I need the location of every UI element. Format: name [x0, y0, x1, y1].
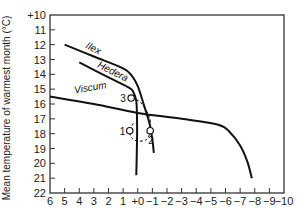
- x-ticks: 654321+0−1−2−3−4−5−6−7−8−9−10: [47, 188, 293, 207]
- x-tick-label: +0: [131, 195, 144, 207]
- y-tick-label: 21: [34, 172, 46, 184]
- x-tick-label: 5: [62, 195, 68, 207]
- series-label-viscum: Viscum: [73, 79, 107, 95]
- y-tick-label: 22: [34, 187, 46, 199]
- chart: 654321+0−1−2−3−4−5−6−7−8−9−10 +101112131…: [0, 0, 304, 216]
- marker-label-3: 3: [120, 93, 126, 104]
- x-tick-label: −2: [161, 195, 174, 207]
- marker-point-1: [127, 128, 133, 134]
- series-group: IlexHederaViscum: [50, 40, 252, 179]
- y-tick-label: 11: [35, 24, 46, 36]
- y-tick-label: 20: [34, 157, 46, 169]
- x-tick-label: 2: [105, 195, 111, 207]
- y-axis-title: Mean temperature of warmest month (°C): [1, 16, 12, 201]
- x-tick-label: −1: [146, 195, 159, 207]
- marker-label-2: 2: [148, 135, 154, 146]
- series-line-ilex: [65, 45, 154, 153]
- y-tick-label: 14: [34, 68, 46, 80]
- x-tick-label: 6: [47, 195, 53, 207]
- x-tick-label: −6: [219, 195, 232, 207]
- x-tick-label: −10: [275, 195, 294, 207]
- x-tick-label: −5: [205, 195, 218, 207]
- marker-point-3: [128, 95, 134, 101]
- x-tick-label: −8: [248, 195, 261, 207]
- y-tick-label: 13: [34, 54, 46, 66]
- y-tick-label: 17: [34, 113, 46, 125]
- x-tick-label: 1: [120, 195, 126, 207]
- y-tick-label: 15: [34, 83, 46, 95]
- x-tick-label: 3: [91, 195, 97, 207]
- x-tick-label: −7: [234, 195, 247, 207]
- y-tick-label: 16: [34, 98, 46, 110]
- y-tick-label: 12: [34, 39, 46, 51]
- y-tick-label: 19: [34, 143, 46, 155]
- y-tick-label: +10: [27, 9, 46, 21]
- y-ticks: +10111213141516171819202122: [27, 9, 55, 199]
- y-tick-label: 18: [34, 128, 46, 140]
- x-tick-label: −4: [190, 195, 203, 207]
- x-tick-label: 4: [76, 195, 82, 207]
- series-line-hedera: [79, 62, 137, 175]
- marker-label-1: 1: [120, 126, 126, 137]
- x-tick-label: −3: [175, 195, 188, 207]
- marker-point-2: [147, 128, 153, 134]
